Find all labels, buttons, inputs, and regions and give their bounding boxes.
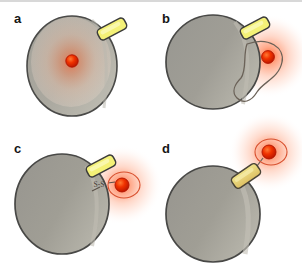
disulfide-linker-label: S-S <box>94 180 105 189</box>
panel-b: b <box>151 0 302 132</box>
panel-d: d <box>151 132 302 264</box>
fluorophore-dot <box>262 145 276 159</box>
fluorophore-dot <box>115 178 129 192</box>
panel-a-graphic <box>0 0 151 132</box>
panel-d-graphic <box>151 132 302 264</box>
fluorophore-dot <box>262 51 275 64</box>
panel-label-a: a <box>14 12 21 25</box>
figure-canvas: a <box>0 0 302 264</box>
panel-a: a <box>0 0 151 132</box>
fluorophore-dot <box>66 55 78 67</box>
panel-label-d: d <box>162 142 170 155</box>
panel-label-c: c <box>14 142 21 155</box>
panel-c: S-S c <box>0 132 151 264</box>
membrane-tag <box>96 17 128 42</box>
panel-b-graphic <box>151 0 302 132</box>
panel-c-graphic: S-S <box>0 132 151 264</box>
panel-label-b: b <box>162 12 170 25</box>
